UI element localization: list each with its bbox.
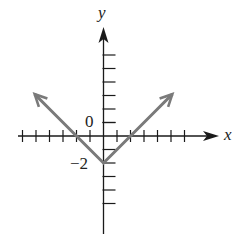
tick-label-zero: 0	[85, 113, 94, 130]
graph-plot	[0, 0, 246, 242]
tick-label-minus-two: −2	[70, 155, 88, 172]
y-axis-label: y	[98, 4, 106, 21]
axes	[18, 27, 219, 234]
x-axis-label: x	[224, 126, 232, 143]
